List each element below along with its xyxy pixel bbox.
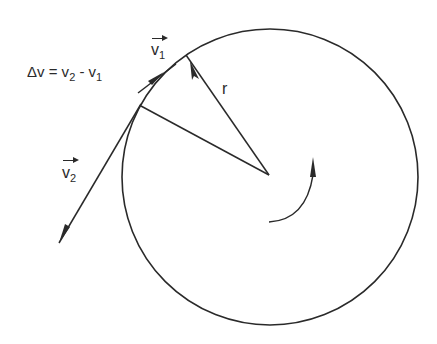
radius-line-2 [141,106,269,175]
rotation-arc [269,175,313,222]
equation-sub-1: 1 [96,71,102,83]
v2-letter: v [62,164,70,181]
v2-vector-arrow-icon [63,160,76,161]
equation-sub-2: 2 [69,71,75,83]
v1-subscript: 1 [159,49,165,61]
v1-vector-arrow-icon [152,38,165,39]
v1-letter: v [151,41,159,58]
delta-v-equation: Δv = v2 - v1 [27,64,102,79]
v2-subscript: 2 [70,172,76,184]
circular-motion-diagram: Δv = v2 - v1 v1 v2 r [0,0,437,344]
v2-arrowhead-icon [59,224,70,243]
rotation-arrowhead-icon [310,157,316,177]
circle-path [122,29,418,325]
radius-arrowhead-icon [190,61,199,80]
equation-lhs: Δv = v [27,63,69,80]
v2-label: v2 [62,165,76,181]
v1-label: v1 [151,42,165,58]
radius-line-1 [186,55,269,175]
radius-label: r [222,81,227,97]
equation-mid: - v [75,63,96,80]
